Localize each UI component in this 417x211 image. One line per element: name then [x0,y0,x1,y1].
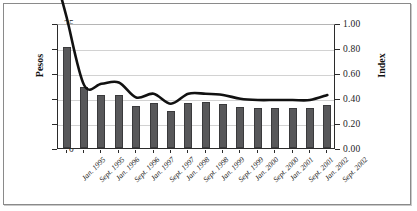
y-axis-label-left: Pesos [34,21,45,111]
line-series [58,25,336,150]
x-tickmark [66,150,67,153]
y-tick-right-0.40: 0.40 [343,94,377,104]
x-tickmark [222,150,223,153]
x-tickmark [257,150,258,153]
x-axis-labels: Jan. 1995Sept. 1995Jan. 1996Sept. 1996Ja… [57,150,335,208]
x-tickmark [135,150,136,153]
x-tickmark [153,150,154,153]
x-tickmark [326,150,327,153]
x-tickmark [239,150,240,153]
chart-figure: Pesos Index 25 20 15 10 5 0 1.00 0.80 0.… [0,0,417,211]
plot-area [57,24,335,149]
y-tick-right-0.20: 0.20 [343,119,377,129]
y-axis-label-right: Index [376,21,387,111]
y-tick-right-1.00: 1.00 [343,19,377,29]
x-tickmark [292,150,293,153]
x-tickmark [170,150,171,153]
x-tickmark [205,150,206,153]
x-tickmark [83,150,84,153]
x-tickmark [118,150,119,153]
x-tickmark [274,150,275,153]
y-tick-right-0.80: 0.80 [343,44,377,54]
x-tickmark [309,150,310,153]
y-tick-right-0.00: 0.00 [343,144,377,154]
x-tickmark [187,150,188,153]
y-tick-right-0.60: 0.60 [343,69,377,79]
x-tickmark [100,150,101,153]
